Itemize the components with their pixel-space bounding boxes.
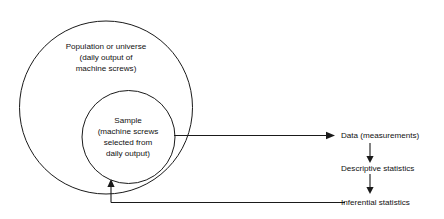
population-label-line-3: machine screws) — [76, 64, 137, 73]
sample-label-line-2: (machine screws — [98, 127, 159, 136]
descriptive-to-inferential-arrowhead — [366, 187, 373, 194]
population-label-line-2: (daily output of — [79, 53, 133, 62]
statistics-flow-diagram: Population or universe (daily output of … — [0, 0, 444, 219]
sample-to-data-arrowhead — [326, 132, 335, 139]
stage-label-descriptive-statistics: Descriptive statistics — [341, 164, 414, 173]
stage-label-inferential-statistics: Inferential statistics — [341, 198, 410, 207]
sample-circle — [82, 91, 175, 184]
inferential-feedback-arrowhead — [107, 179, 114, 187]
data-to-descriptive-arrowhead — [366, 156, 373, 163]
population-label-line-1: Population or universe — [66, 42, 147, 51]
stage-label-data: Data (measurements) — [341, 131, 420, 140]
diagram-container: Population or universe (daily output of … — [0, 0, 444, 219]
sample-label-line-1: Sample — [114, 116, 142, 125]
sample-label-line-4: daily output) — [106, 149, 150, 158]
sample-label-line-3: selected from — [104, 138, 153, 147]
